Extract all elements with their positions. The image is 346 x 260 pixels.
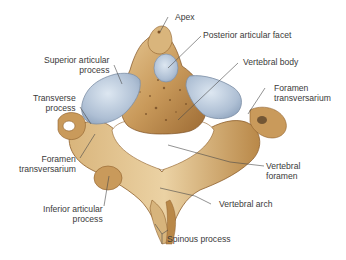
label-vertebral-foramen: Vertebral foramen: [266, 162, 300, 181]
label-posterior-articular-facet: Posterior articular facet: [203, 31, 291, 41]
label-foramen-transversarium-right-line2: transversarium: [274, 94, 331, 104]
label-foramen-transversarium-left: Foramen transversarium: [19, 155, 76, 174]
label-foramen-transversarium-left-line2: transversarium: [19, 165, 76, 175]
label-foramen-transversarium-right: Foramen transversarium: [274, 84, 331, 103]
label-superior-articular-process: Superior articular process: [44, 56, 109, 75]
label-vertebral-body: Vertebral body: [243, 58, 298, 68]
label-vertebral-arch: Vertebral arch: [219, 200, 273, 210]
label-transverse-process: Transverse process: [33, 94, 76, 113]
label-inferior-articular-process-line2: process: [43, 215, 103, 225]
label-inferior-articular-process: Inferior articular process: [43, 205, 103, 224]
label-apex: Apex: [175, 13, 195, 23]
label-vertebral-foramen-line2: foramen: [266, 172, 300, 182]
label-transverse-process-line2: process: [33, 104, 76, 114]
label-spinous-process: Spinous process: [167, 235, 231, 245]
label-superior-articular-process-line2: process: [44, 66, 109, 76]
